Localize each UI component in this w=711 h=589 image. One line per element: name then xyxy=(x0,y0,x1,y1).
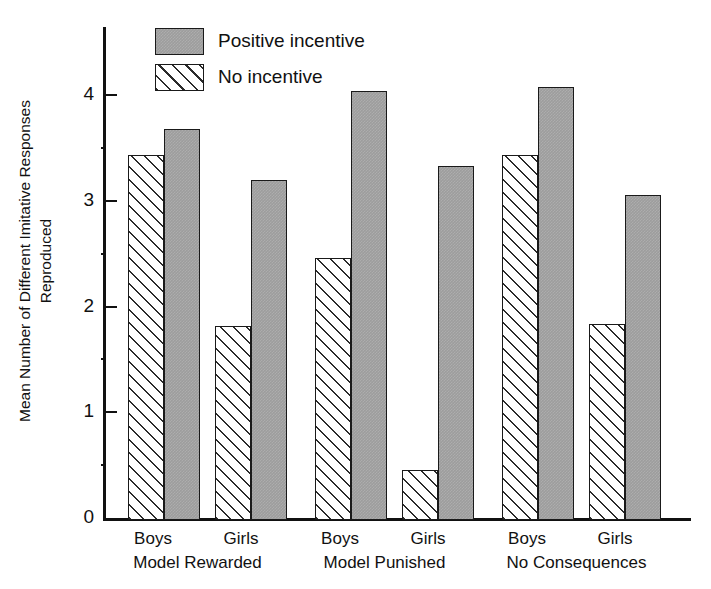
x-label-no-consequences-girls: Girls xyxy=(570,529,660,549)
x-group-label-model-rewarded: Model Rewarded xyxy=(105,553,290,573)
y-axis-label-4: 4 xyxy=(64,83,94,105)
legend-swatch-gray-icon xyxy=(155,28,204,55)
bar-chart: Mean Number of Different Imitative Respo… xyxy=(0,0,711,589)
legend-label-no-incentive: No incentive xyxy=(218,66,323,88)
x-label-model-punished-girls: Girls xyxy=(383,529,473,549)
y-axis-title-line1: Mean Number of Different Imitative Respo… xyxy=(16,100,33,422)
plot-area xyxy=(103,27,691,520)
x-label-model-punished-boys: Boys xyxy=(295,529,385,549)
y-axis-label-0: 0 xyxy=(64,506,94,528)
legend: Positive incentive No incentive xyxy=(155,26,365,98)
y-axis-title: Mean Number of Different Imitative Respo… xyxy=(14,21,56,501)
bar-model-rewarded-boys-positive-incentive xyxy=(164,129,200,520)
y-axis-label-1: 1 xyxy=(64,400,94,422)
bar-model-rewarded-boys-no-incentive xyxy=(128,155,164,520)
y-axis-label-2: 2 xyxy=(64,295,94,317)
legend-item-positive-incentive: Positive incentive xyxy=(155,26,365,56)
bar-model-rewarded-girls-positive-incentive xyxy=(251,180,287,521)
y-axis-label-3: 3 xyxy=(64,189,94,211)
y-axis-title-container: Mean Number of Different Imitative Respo… xyxy=(0,0,66,589)
x-label-model-rewarded-girls: Girls xyxy=(196,529,286,549)
bar-no-consequences-girls-no-incentive xyxy=(589,324,625,520)
legend-label-positive-incentive: Positive incentive xyxy=(218,30,365,52)
bar-no-consequences-girls-positive-incentive xyxy=(625,195,661,520)
bar-model-rewarded-girls-no-incentive xyxy=(215,326,251,520)
y-axis-title-line2: Reproduced xyxy=(35,21,56,501)
bar-model-punished-boys-no-incentive xyxy=(315,258,351,520)
x-group-label-no-consequences: No Consequences xyxy=(479,553,674,573)
x-group-label-model-punished: Model Punished xyxy=(292,553,477,573)
bar-no-consequences-boys-no-incentive xyxy=(502,155,538,520)
x-label-no-consequences-boys: Boys xyxy=(482,529,572,549)
bar-model-punished-girls-positive-incentive xyxy=(438,166,474,520)
x-label-model-rewarded-boys: Boys xyxy=(108,529,198,549)
bar-model-punished-girls-no-incentive xyxy=(402,470,438,520)
bar-model-punished-boys-positive-incentive xyxy=(351,91,387,520)
legend-swatch-hatched-icon xyxy=(155,64,204,91)
legend-item-no-incentive: No incentive xyxy=(155,62,365,92)
bar-no-consequences-boys-positive-incentive xyxy=(538,87,574,520)
